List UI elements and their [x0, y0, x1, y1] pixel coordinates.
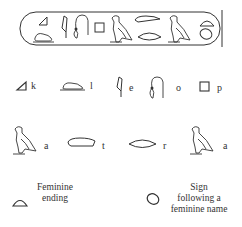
triangle-icon: [16, 81, 28, 91]
lion-icon: [58, 80, 86, 94]
cartouche: [0, 0, 242, 50]
letter-r: r: [163, 141, 166, 151]
letter-k: k: [31, 81, 36, 91]
vulture-icon: [189, 125, 215, 157]
egg-icon: [146, 192, 160, 206]
feminine-name-caption: Sign following a feminine name: [164, 182, 234, 215]
letter-a-2: a: [223, 141, 227, 151]
bread-loaf-icon: [12, 198, 28, 208]
feminine-ending-caption: Feminine ending: [30, 182, 80, 204]
vulture-icon: [12, 125, 38, 157]
reed-icon: [115, 76, 125, 98]
letter-e: e: [129, 83, 133, 93]
hand-icon: [67, 137, 97, 149]
letter-a-1: a: [44, 141, 48, 151]
letter-o: o: [176, 83, 181, 93]
mouth-icon: [128, 139, 158, 151]
rope-loop-icon: [147, 76, 167, 100]
square-icon: [199, 81, 211, 93]
letter-t: t: [102, 141, 105, 151]
letter-p: p: [217, 83, 222, 93]
letter-l: l: [90, 81, 93, 91]
